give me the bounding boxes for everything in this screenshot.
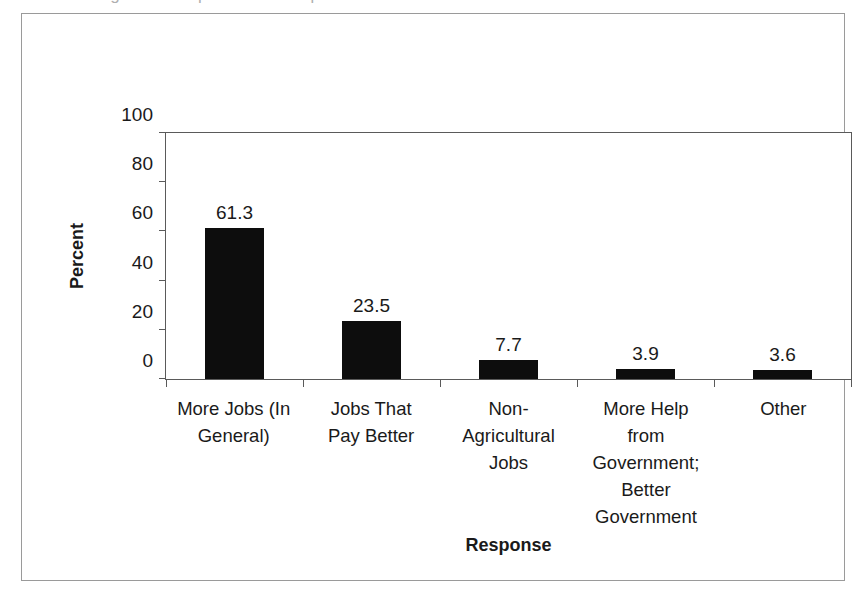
bar-value-label: 3.6 xyxy=(769,345,795,364)
figure-frame: Percent 020406080100 61.323.57.73.93.6 M… xyxy=(21,13,845,581)
cut-off-caption: Figure 4. Responses to the question of w… xyxy=(0,0,866,11)
y-axis-tick xyxy=(159,280,166,281)
y-axis-tick xyxy=(159,230,166,231)
x-axis-tick xyxy=(303,379,304,387)
bar-slot: 3.9 xyxy=(577,133,714,379)
bar-value-label: 61.3 xyxy=(216,203,253,222)
y-axis-tick-label: 100 xyxy=(121,105,153,124)
y-axis-tick xyxy=(159,132,166,133)
y-axis-title-text: Percent xyxy=(68,223,86,289)
bar[interactable]: 61.3 xyxy=(205,228,264,379)
x-axis-category-label: More Help from Government; Better Govern… xyxy=(577,395,714,530)
bar-value-label: 7.7 xyxy=(495,335,521,354)
bar[interactable]: 3.9 xyxy=(616,369,675,379)
x-axis-tick xyxy=(577,379,578,387)
x-axis-category-label: Non- Agricultural Jobs xyxy=(440,395,577,530)
cut-off-caption-text: Figure 4. Responses to the question of w… xyxy=(96,0,549,5)
y-axis-tick-label: 0 xyxy=(142,351,153,370)
x-axis-tick xyxy=(166,379,167,387)
bar-value-label: 3.9 xyxy=(632,344,658,363)
plot-area: 020406080100 61.323.57.73.93.6 xyxy=(165,132,852,380)
x-axis-category-label: Jobs That Pay Better xyxy=(302,395,439,530)
y-axis-tick-label: 80 xyxy=(132,154,153,173)
bar-slot: 23.5 xyxy=(303,133,440,379)
bar-value-label: 23.5 xyxy=(353,296,390,315)
bar[interactable]: 23.5 xyxy=(342,321,401,379)
bar-slot: 7.7 xyxy=(440,133,577,379)
x-axis-tick xyxy=(851,379,852,387)
x-axis-category-label: More Jobs (In General) xyxy=(165,395,302,530)
x-axis-category-labels: More Jobs (In General)Jobs That Pay Bett… xyxy=(165,395,852,530)
y-axis-tick-label: 60 xyxy=(132,203,153,222)
bar-slot: 61.3 xyxy=(166,133,303,379)
bar[interactable]: 3.6 xyxy=(753,370,812,379)
bar[interactable]: 7.7 xyxy=(479,360,538,379)
x-axis-title: Response xyxy=(165,536,852,554)
y-axis-tick-label: 40 xyxy=(132,252,153,271)
bar-slot: 3.6 xyxy=(714,133,851,379)
y-axis-tick-label: 20 xyxy=(132,301,153,320)
x-axis-tick xyxy=(440,379,441,387)
y-axis-tick xyxy=(159,329,166,330)
y-axis-tick xyxy=(159,181,166,182)
x-axis-category-label: Other xyxy=(715,395,852,530)
y-axis-tick xyxy=(159,378,166,379)
bars-layer: 61.323.57.73.93.6 xyxy=(166,133,851,379)
x-axis-tick xyxy=(714,379,715,387)
